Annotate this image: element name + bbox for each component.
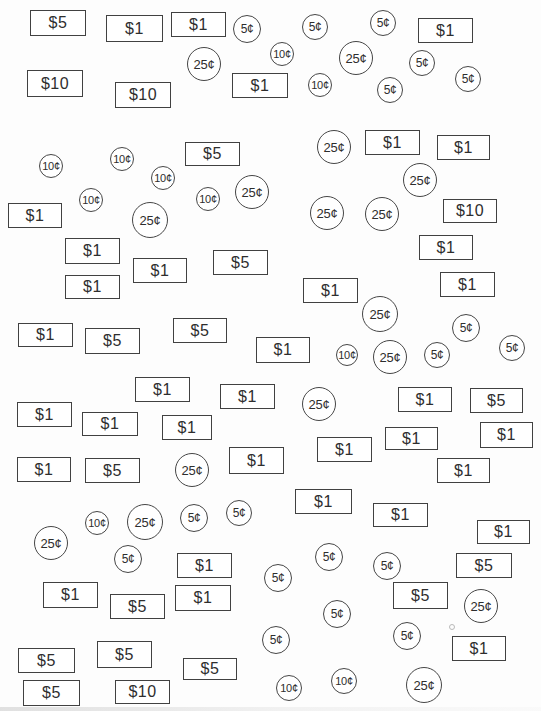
coin-10c: 10¢: [110, 147, 134, 171]
coin-5c: 5¢: [373, 552, 401, 580]
coin-10c: 10¢: [151, 166, 175, 190]
coin-5c: 5¢: [315, 543, 343, 571]
scan-edge-artifact: [0, 707, 541, 711]
bill-1: $1: [303, 278, 358, 303]
bill-1: $1: [106, 15, 163, 42]
bill-1: $1: [17, 457, 71, 482]
bill-1: $1: [177, 553, 232, 578]
bill-5: $5: [393, 582, 448, 609]
bill-1: $1: [480, 422, 533, 448]
coin-25c: 25¢: [175, 453, 209, 487]
coin-25c: 25¢: [132, 202, 168, 238]
coin-25c: 25¢: [310, 196, 344, 230]
coin-10c: 10¢: [270, 42, 294, 66]
bill-1: $1: [419, 235, 473, 260]
bill-5: $5: [18, 648, 75, 673]
coin-5c: 5¢: [264, 564, 292, 592]
coin-5c: 5¢: [409, 50, 435, 76]
coin-25c: 25¢: [235, 175, 269, 209]
bill-1: $1: [65, 238, 120, 264]
bill-5: $5: [185, 142, 240, 166]
coin-5c: 5¢: [452, 314, 480, 342]
bill-10: $10: [115, 82, 171, 108]
bill-5: $5: [470, 388, 523, 413]
bill-5: $5: [110, 594, 165, 619]
bill-1: $1: [440, 272, 495, 297]
coin-25c: 25¢: [373, 340, 407, 374]
coin-10c: 10¢: [79, 188, 103, 212]
coin-25c: 25¢: [339, 41, 373, 75]
bill-1: $1: [477, 520, 530, 544]
bill-1: $1: [373, 503, 428, 527]
bill-1: $1: [133, 258, 187, 283]
coin-5c: 5¢: [114, 545, 142, 573]
bill-5: $5: [97, 641, 152, 668]
bill-1: $1: [17, 402, 72, 427]
coin-5c: 5¢: [302, 14, 328, 40]
coin-5c: 5¢: [262, 626, 290, 654]
speck-dot: [449, 624, 455, 630]
coin-5c: 5¢: [424, 342, 450, 368]
coin-10c: 10¢: [196, 187, 220, 211]
coin-25c: 25¢: [403, 163, 437, 197]
coin-10c: 10¢: [85, 511, 109, 535]
coin-25c: 25¢: [406, 667, 442, 703]
bill-1: $1: [65, 275, 120, 299]
bill-1: $1: [232, 73, 288, 98]
coin-10c: 10¢: [308, 73, 332, 97]
coin-5c: 5¢: [499, 335, 525, 361]
bill-5: $5: [23, 680, 80, 706]
coin-25c: 25¢: [317, 130, 351, 164]
coin-25c: 25¢: [365, 197, 399, 231]
bill-1: $1: [175, 585, 231, 611]
bill-1: $1: [171, 12, 226, 37]
coin-5c: 5¢: [455, 66, 481, 92]
bill-1: $1: [220, 384, 275, 409]
coin-5c: 5¢: [370, 10, 396, 36]
coin-10c: 10¢: [331, 668, 357, 694]
coin-10c: 10¢: [336, 344, 358, 366]
coin-5c: 5¢: [233, 15, 261, 43]
bill-5: $5: [173, 318, 227, 343]
coin-25c: 25¢: [187, 47, 221, 81]
bill-1: $1: [256, 337, 310, 363]
coin-5c: 5¢: [323, 600, 351, 628]
bill-1: $1: [135, 377, 190, 402]
bill-5: $5: [213, 250, 268, 275]
coin-25c: 25¢: [127, 504, 163, 540]
bill-1: $1: [317, 437, 372, 462]
coin-10c: 10¢: [276, 675, 302, 701]
bill-5: $5: [85, 458, 140, 483]
coin-25c: 25¢: [464, 589, 498, 623]
bill-1: $1: [295, 489, 352, 514]
bill-1: $1: [398, 387, 452, 412]
bill-1: $1: [385, 427, 438, 450]
bill-10: $10: [443, 199, 497, 223]
coin-25c: 25¢: [302, 387, 336, 421]
bill-10: $10: [115, 680, 170, 704]
bill-5: $5: [30, 10, 86, 36]
coin-5c: 5¢: [226, 500, 252, 526]
coin-5c: 5¢: [393, 622, 421, 650]
bill-1: $1: [437, 458, 490, 483]
bill-1: $1: [365, 130, 420, 155]
coin-5c: 5¢: [377, 77, 403, 103]
bill-5: $5: [456, 553, 512, 578]
bill-1: $1: [418, 18, 473, 43]
bill-1: $1: [43, 582, 98, 608]
bill-10: $10: [27, 70, 83, 97]
bill-1: $1: [8, 203, 62, 228]
bill-1: $1: [437, 135, 490, 160]
bill-1: $1: [82, 412, 138, 436]
coin-25c: 25¢: [362, 296, 398, 332]
bill-5: $5: [183, 658, 237, 680]
coin-10c: 10¢: [39, 154, 63, 178]
bill-1: $1: [229, 447, 284, 474]
bill-1: $1: [452, 636, 506, 661]
coin-25c: 25¢: [34, 526, 68, 560]
bill-1: $1: [18, 323, 73, 347]
money-worksheet-page: $5$1$15¢5¢5¢$125¢10¢25¢5¢5¢$10$10$110¢5¢…: [0, 0, 541, 711]
bill-1: $1: [162, 415, 212, 440]
coin-5c: 5¢: [180, 504, 208, 532]
bill-5: $5: [85, 328, 140, 354]
